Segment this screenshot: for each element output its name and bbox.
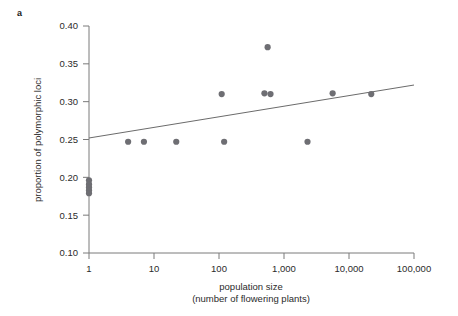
- x-axis-title-line2: (number of flowering plants): [192, 293, 310, 304]
- data-point: [221, 139, 227, 145]
- axes: [89, 26, 414, 253]
- data-point: [265, 44, 271, 50]
- x-tick-label: 10,000: [334, 263, 363, 274]
- x-tick-label: 100: [211, 263, 227, 274]
- x-tick-label: 10: [149, 263, 160, 274]
- data-point: [219, 91, 225, 97]
- y-tick-label: 0.40: [60, 20, 79, 31]
- y-axis-title: proportion of polymorphic loci: [32, 78, 43, 202]
- data-point: [304, 139, 310, 145]
- y-tick-label: 0.15: [60, 210, 79, 221]
- data-point: [261, 90, 267, 96]
- y-tick-label: 0.20: [60, 172, 79, 183]
- figure-panel-a: a 0.100.150.200.250.300.350.40 1101001,0…: [0, 0, 458, 316]
- y-tick-label: 0.30: [60, 96, 79, 107]
- data-point: [141, 139, 147, 145]
- scatter-plot: 0.100.150.200.250.300.350.40 1101001,000…: [0, 0, 458, 316]
- x-axis-title-line1: population size: [219, 281, 282, 292]
- data-point: [267, 91, 273, 97]
- x-tick-label: 1,000: [272, 263, 296, 274]
- y-tick-label: 0.25: [60, 134, 79, 145]
- y-tick-label: 0.10: [60, 247, 79, 258]
- regression-trend-line: [89, 85, 414, 138]
- data-point: [330, 90, 336, 96]
- data-point: [368, 91, 374, 97]
- data-point: [173, 139, 179, 145]
- y-tick-label: 0.35: [60, 58, 79, 69]
- axis-titles: population size (number of flowering pla…: [32, 78, 310, 304]
- x-tick-label: 100,000: [397, 263, 431, 274]
- y-axis-ticks: 0.100.150.200.250.300.350.40: [60, 20, 90, 258]
- trend-line-group: [89, 85, 414, 138]
- x-axis-ticks: 1101001,00010,000100,000: [86, 253, 431, 274]
- data-point: [86, 190, 92, 196]
- x-tick-label: 1: [86, 263, 91, 274]
- data-point: [125, 139, 131, 145]
- data-points-group: [86, 44, 374, 196]
